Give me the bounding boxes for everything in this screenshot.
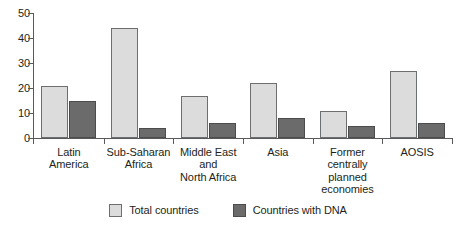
chart-legend: Total countries Countries with DNA xyxy=(0,198,456,222)
legend-item-total-countries: Total countries xyxy=(109,204,198,217)
legend-swatch-icon-dna xyxy=(233,204,246,217)
x-category-label-5: AOSIS xyxy=(376,146,456,158)
bar-total-1 xyxy=(111,28,138,138)
bar-dna-1 xyxy=(139,128,166,138)
bar-chart: 50 40 30 20 10 0 LatinAmericaSub-Saharan… xyxy=(0,0,456,235)
legend-item-countries-with-dna: Countries with DNA xyxy=(233,204,347,217)
legend-label-total: Total countries xyxy=(129,204,198,216)
bar-total-5 xyxy=(390,71,417,139)
bar-dna-5 xyxy=(418,123,445,138)
bar-dna-3 xyxy=(278,118,305,138)
bar-total-0 xyxy=(41,86,68,139)
legend-swatch-icon-total xyxy=(109,204,122,217)
bars-layer xyxy=(0,0,456,140)
plot-area: 50 40 30 20 10 0 xyxy=(0,0,456,140)
legend-label-dna: Countries with DNA xyxy=(253,204,347,216)
bar-total-2 xyxy=(181,96,208,139)
x-axis-category-labels: LatinAmericaSub-SaharanAfricaMiddle East… xyxy=(0,141,456,197)
bar-dna-0 xyxy=(69,101,96,139)
bar-total-3 xyxy=(250,83,277,138)
bar-dna-2 xyxy=(209,123,236,138)
bar-total-4 xyxy=(320,111,347,139)
bar-dna-4 xyxy=(348,126,375,139)
